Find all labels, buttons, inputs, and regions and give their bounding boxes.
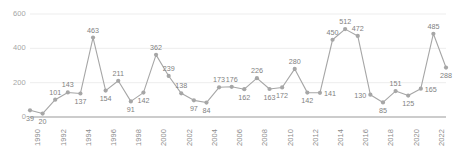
y-axis-tick-label: 200 xyxy=(0,78,26,87)
data-point-label: 130 xyxy=(353,91,367,100)
data-point-marker xyxy=(406,93,410,97)
data-point-marker xyxy=(280,85,284,89)
data-point-marker xyxy=(91,35,95,39)
x-axis-tick-label: 1998 xyxy=(134,129,143,146)
data-point-label: 463 xyxy=(86,26,100,35)
data-point-marker xyxy=(255,76,259,80)
x-axis-tick-label: 2014 xyxy=(336,129,345,146)
data-point-label: 143 xyxy=(61,80,75,89)
data-point-label: 125 xyxy=(401,99,415,108)
data-point-marker xyxy=(444,65,448,69)
data-point-marker xyxy=(179,91,183,95)
x-axis-tick-label: 2012 xyxy=(311,129,320,146)
data-point-label: 280 xyxy=(288,57,302,66)
data-point-label: 211 xyxy=(111,69,125,78)
data-point-marker xyxy=(419,87,423,91)
data-point-label: 288 xyxy=(439,71,453,80)
data-point-marker xyxy=(53,98,57,102)
data-point-marker xyxy=(167,74,171,78)
data-point-label: 485 xyxy=(426,22,440,31)
x-axis-tick-label: 1994 xyxy=(84,129,93,146)
data-point-label: 85 xyxy=(376,106,390,115)
data-point-label: 176 xyxy=(225,75,239,84)
x-axis-tick-label: 2006 xyxy=(235,129,244,146)
data-point-marker xyxy=(129,99,133,103)
data-point-label: 162 xyxy=(237,93,251,102)
data-point-marker xyxy=(293,67,297,71)
data-point-label: 91 xyxy=(124,105,138,114)
x-axis-tick-label: 2010 xyxy=(286,129,295,146)
data-point-marker xyxy=(381,100,385,104)
data-point-marker xyxy=(66,90,70,94)
x-axis-tick-label: 2022 xyxy=(437,129,446,146)
data-point-label: 362 xyxy=(149,43,163,52)
data-point-label: 154 xyxy=(99,94,113,103)
y-axis-tick-label: 600 xyxy=(0,9,26,18)
x-axis-tick-label: 1996 xyxy=(109,129,118,146)
x-axis-tick-label: 2000 xyxy=(159,129,168,146)
data-point-label: 226 xyxy=(250,66,264,75)
data-point-marker xyxy=(368,93,372,97)
data-point-label: 142 xyxy=(300,96,314,105)
data-point-label: 137 xyxy=(73,97,87,106)
data-point-label: 450 xyxy=(326,28,340,37)
data-point-marker xyxy=(267,87,271,91)
data-point-label: 165 xyxy=(424,85,438,94)
data-point-marker xyxy=(330,38,334,42)
data-point-marker xyxy=(242,87,246,91)
data-point-marker xyxy=(192,98,196,102)
data-point-label: 138 xyxy=(174,81,188,90)
data-point-marker xyxy=(116,79,120,83)
y-axis-tick-label: 400 xyxy=(0,43,26,52)
data-point-marker xyxy=(141,91,145,95)
data-point-marker xyxy=(204,100,208,104)
data-point-marker xyxy=(343,27,347,31)
data-point-label: 239 xyxy=(162,64,176,73)
data-point-label: 20 xyxy=(36,117,50,126)
data-point-marker xyxy=(356,34,360,38)
data-point-label: 141 xyxy=(323,89,337,98)
data-point-marker xyxy=(305,91,309,95)
data-point-marker xyxy=(154,53,158,57)
x-axis-tick-label: 2020 xyxy=(412,129,421,146)
x-axis-tick-label: 2002 xyxy=(185,129,194,146)
data-point-marker xyxy=(78,91,82,95)
x-axis-tick-label: 2008 xyxy=(260,129,269,146)
x-axis-tick-label: 2016 xyxy=(361,129,370,146)
data-point-marker xyxy=(431,32,435,36)
data-point-label: 151 xyxy=(389,79,403,88)
data-point-marker xyxy=(318,91,322,95)
data-point-label: 84 xyxy=(199,106,213,115)
x-axis-tick-label: 1992 xyxy=(59,129,68,146)
x-axis-tick-label: 1990 xyxy=(33,129,42,146)
data-point-marker xyxy=(393,89,397,93)
data-point-label: 472 xyxy=(351,24,365,33)
x-axis-tick-label: 2018 xyxy=(386,129,395,146)
data-point-marker xyxy=(230,85,234,89)
data-point-marker xyxy=(28,108,32,112)
data-point-label: 142 xyxy=(136,96,150,105)
data-point-marker xyxy=(41,111,45,115)
x-axis-tick-label: 2004 xyxy=(210,129,219,146)
data-point-label: 172 xyxy=(275,91,289,100)
data-point-marker xyxy=(104,88,108,92)
data-point-marker xyxy=(217,85,221,89)
